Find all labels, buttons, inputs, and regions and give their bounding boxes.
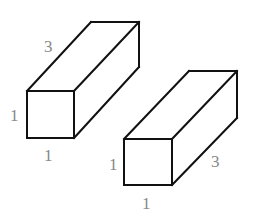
prism-right: 1 1 3 (109, 71, 237, 213)
prism-right-width-label: 1 (142, 194, 151, 213)
diagram-canvas: 3 1 1 1 1 3 (0, 0, 254, 222)
prism-left-top-left-edge (27, 22, 91, 91)
prism-left-length-label: 3 (44, 37, 53, 56)
prism-right-height-label: 1 (109, 155, 118, 174)
prism-left-front-face (27, 91, 74, 138)
prism-right-length-label: 3 (211, 152, 220, 171)
prism-left: 3 1 1 (10, 22, 139, 165)
prism-left-height-label: 1 (10, 106, 19, 125)
prism-left-bottom-right-edge (74, 67, 139, 138)
prism-left-top-right-edge (74, 22, 139, 91)
prism-left-width-label: 1 (44, 146, 53, 165)
prism-right-top-left-edge (124, 71, 189, 139)
prism-right-front-face (124, 139, 172, 185)
